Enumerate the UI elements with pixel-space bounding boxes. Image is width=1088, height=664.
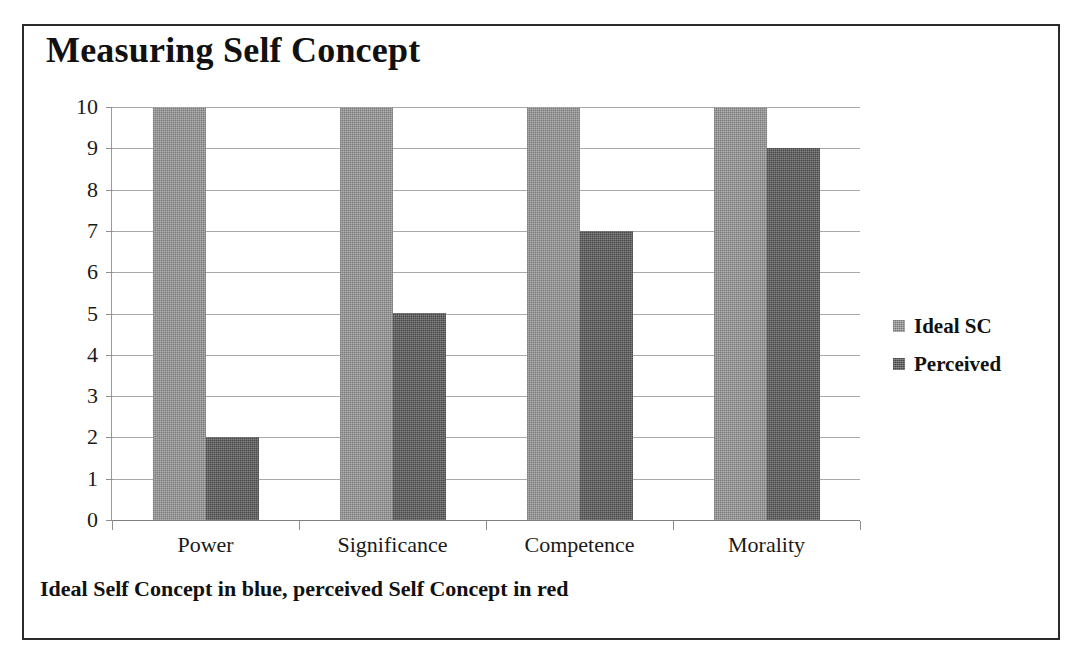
y-axis-tick-mark [106, 314, 113, 315]
chart-legend: Ideal SCPerceived [893, 307, 1043, 383]
bar-morality-perceived[interactable] [767, 148, 820, 520]
chart-title: Measuring Self Concept [46, 32, 420, 68]
bar-competence-ideal-sc[interactable] [527, 107, 580, 520]
figure-caption: Ideal Self Concept in blue, perceived Se… [40, 578, 568, 600]
x-axis-tick-mark [112, 521, 113, 530]
x-axis-tick-mark [486, 521, 487, 530]
y-axis-tick-label: 2 [38, 426, 98, 448]
bar-significance-perceived[interactable] [393, 313, 446, 520]
y-axis-tick-mark [106, 272, 113, 273]
x-axis-tick-mark [299, 521, 300, 530]
y-axis-tick-label: 1 [38, 468, 98, 490]
y-axis-tick-label: 3 [38, 385, 98, 407]
legend-item-ideal-sc[interactable]: Ideal SC [893, 307, 1043, 345]
y-axis-tick-mark [106, 479, 113, 480]
y-axis-tick-label: 8 [38, 179, 98, 201]
bar-morality-ideal-sc[interactable] [714, 107, 767, 520]
bar-competence-perceived[interactable] [580, 231, 633, 520]
y-axis-tick-mark [106, 437, 113, 438]
y-axis-tick-mark [106, 107, 113, 108]
y-axis-tick-label: 0 [38, 509, 98, 531]
y-axis-tick-mark [106, 190, 113, 191]
legend-item-label: Perceived [914, 354, 1001, 375]
y-axis-tick-label: 10 [38, 96, 98, 118]
x-axis-tick-mark [860, 521, 861, 530]
x-axis-label-morality: Morality [673, 534, 860, 556]
y-axis-tick-label: 5 [38, 303, 98, 325]
legend-item-label: Ideal SC [914, 316, 992, 337]
plot-area [112, 107, 860, 520]
y-axis-tick-label: 7 [38, 220, 98, 242]
y-axis-tick-mark [106, 148, 113, 149]
y-axis-tick-label: 4 [38, 344, 98, 366]
legend-swatch-ideal-icon [893, 320, 905, 332]
y-axis-tick-label: 9 [38, 137, 98, 159]
bar-power-ideal-sc[interactable] [153, 107, 206, 520]
legend-item-perceived[interactable]: Perceived [893, 345, 1043, 383]
x-axis-label-power: Power [112, 534, 299, 556]
bar-significance-ideal-sc[interactable] [340, 107, 393, 520]
bar-power-perceived[interactable] [206, 437, 259, 520]
x-axis-category-labels: PowerSignificanceCompetenceMorality [112, 534, 860, 574]
y-axis-tick-label: 6 [38, 261, 98, 283]
figure-frame: Measuring Self Concept 109876543210 Powe… [22, 24, 1060, 640]
y-axis-tick-labels: 109876543210 [24, 26, 98, 638]
x-axis-tick-mark [673, 521, 674, 530]
x-axis-label-competence: Competence [486, 534, 673, 556]
legend-swatch-perceived-icon [893, 358, 905, 370]
y-axis-tick-mark [106, 231, 113, 232]
x-axis-label-significance: Significance [299, 534, 486, 556]
y-axis-tick-mark [106, 396, 113, 397]
y-axis-tick-mark [106, 355, 113, 356]
